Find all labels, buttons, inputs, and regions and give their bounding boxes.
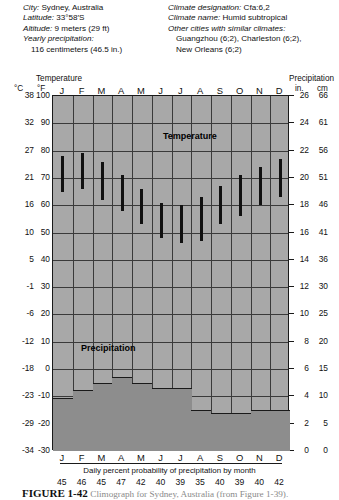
tick-mark bbox=[289, 150, 294, 151]
month-label-bottom: A bbox=[190, 452, 210, 463]
celsius-tick-label: -6 bbox=[8, 308, 34, 318]
month-label-bottom: D bbox=[269, 452, 289, 463]
temperature-range-bar bbox=[140, 189, 143, 225]
temperature-series-label: Temperature bbox=[163, 131, 217, 141]
precipitation-step bbox=[132, 383, 152, 451]
probability-caption: Daily percent probability of precipitati… bbox=[0, 466, 339, 475]
centimeters-tick-label: 46 bbox=[313, 199, 328, 209]
inches-tick-label: 10 bbox=[295, 308, 309, 318]
probability-value: 39 bbox=[169, 477, 191, 487]
centimeters-tick-label: 56 bbox=[313, 145, 328, 155]
precipitation-step bbox=[93, 383, 113, 451]
fahrenheit-tick-label: 80 bbox=[33, 145, 50, 155]
info-line: Climate name: Humid subtropical bbox=[168, 13, 339, 23]
inches-tick-label: 26 bbox=[295, 90, 309, 100]
centimeters-tick-label: 66 bbox=[313, 90, 328, 100]
precipitation-series-label: Precipitation bbox=[81, 343, 136, 353]
probability-value: 47 bbox=[110, 477, 132, 487]
info-line: Other cities with similar climates: bbox=[168, 24, 339, 34]
probability-value: 46 bbox=[71, 477, 93, 487]
info-line: New Orleans (6;2) bbox=[168, 45, 339, 55]
celsius-tick-label: -1 bbox=[8, 281, 34, 291]
temperature-range-bar bbox=[200, 197, 203, 241]
inches-tick-label: 0 bbox=[295, 445, 309, 455]
temperature-range-bar bbox=[239, 175, 242, 216]
info-line: 116 centimeters (46.5 in.) bbox=[23, 45, 173, 55]
probability-value: 45 bbox=[51, 477, 73, 487]
tick-mark bbox=[289, 177, 294, 178]
temperature-range-bar bbox=[121, 175, 124, 211]
info-line: Yearly precipitation: bbox=[23, 34, 173, 44]
centimeters-tick-label: 61 bbox=[313, 117, 328, 127]
temperature-range-bar bbox=[219, 186, 222, 224]
precipitation-step bbox=[112, 377, 132, 451]
celsius-tick-label: -29 bbox=[8, 418, 34, 428]
inches-tick-label: 8 bbox=[295, 336, 309, 346]
tick-mark bbox=[289, 286, 294, 287]
tick-mark bbox=[289, 204, 294, 205]
figure-caption-text: Climograph for Sydney, Australia (from F… bbox=[90, 489, 288, 499]
probability-value: 40 bbox=[248, 477, 270, 487]
temperature-range-bar bbox=[259, 167, 262, 205]
inches-tick-label: 2 bbox=[295, 418, 309, 428]
info-line: Guangzhou (6;2), Charleston (6;2), bbox=[168, 34, 339, 44]
month-label-bottom: S bbox=[210, 452, 230, 463]
celsius-tick-label: 10 bbox=[8, 227, 34, 237]
fahrenheit-tick-label: 30 bbox=[33, 281, 50, 291]
tick-mark bbox=[289, 368, 294, 369]
figure-number: FIGURE 1-42 bbox=[22, 487, 88, 499]
fahrenheit-tick-label: 20 bbox=[33, 308, 50, 318]
fahrenheit-tick-label: 60 bbox=[33, 199, 50, 209]
inches-tick-label: 16 bbox=[295, 227, 309, 237]
celsius-tick-label: 38 bbox=[8, 90, 34, 100]
month-label-bottom: A bbox=[111, 452, 131, 463]
tick-mark bbox=[289, 95, 294, 96]
month-label-bottom: M bbox=[131, 452, 151, 463]
climograph-plot-area: Temperature Precipitation bbox=[52, 95, 289, 450]
inches-tick-label: 4 bbox=[295, 390, 309, 400]
month-label-bottom: O bbox=[230, 452, 250, 463]
temperature-range-bar bbox=[180, 205, 183, 243]
tick-mark bbox=[289, 395, 294, 396]
precipitation-step bbox=[172, 388, 192, 451]
celsius-tick-label: -34 bbox=[8, 445, 34, 455]
centimeters-tick-label: 41 bbox=[313, 227, 328, 237]
centimeters-tick-label: 25 bbox=[313, 308, 328, 318]
celsius-tick-label: 16 bbox=[8, 199, 34, 209]
centimeters-tick-label: 51 bbox=[313, 172, 328, 182]
inches-tick-label: 6 bbox=[295, 363, 309, 373]
month-label-bottom: J bbox=[170, 452, 190, 463]
precipitation-scale: 2666246122562051184616411436123010258206… bbox=[289, 95, 339, 451]
temperature-range-bar bbox=[160, 203, 163, 239]
info-line: Latitude: 33°58′S bbox=[23, 13, 173, 23]
fahrenheit-tick-label: 40 bbox=[33, 254, 50, 264]
probability-value: 40 bbox=[209, 477, 231, 487]
centimeters-tick-label: 5 bbox=[313, 418, 328, 428]
info-line: Climate designation: Cfa:6,2 bbox=[168, 3, 339, 13]
centimeters-tick-label: 36 bbox=[313, 254, 328, 264]
precipitation-step-area bbox=[53, 96, 288, 449]
inches-tick-label: 12 bbox=[295, 281, 309, 291]
month-label-bottom: J bbox=[52, 452, 72, 463]
celsius-tick-label: 32 bbox=[8, 117, 34, 127]
tick-mark bbox=[289, 341, 294, 342]
probability-value: 40 bbox=[150, 477, 172, 487]
tick-mark bbox=[289, 313, 294, 314]
tick-mark bbox=[289, 122, 294, 123]
centimeters-tick-label: 10 bbox=[313, 390, 328, 400]
temperature-range-bar bbox=[279, 159, 282, 197]
precipitation-step bbox=[73, 390, 93, 451]
inches-tick-label: 14 bbox=[295, 254, 309, 264]
tick-mark bbox=[289, 232, 294, 233]
inches-tick-label: 22 bbox=[295, 145, 309, 155]
probability-value: 35 bbox=[189, 477, 211, 487]
fahrenheit-tick-label: 70 bbox=[33, 172, 50, 182]
probability-value: 42 bbox=[130, 477, 152, 487]
precipitation-step bbox=[211, 413, 231, 451]
fahrenheit-tick-label: -20 bbox=[33, 418, 50, 428]
precipitation-step bbox=[270, 410, 290, 451]
precipitation-step bbox=[231, 413, 251, 451]
celsius-tick-label: -23 bbox=[8, 390, 34, 400]
celsius-tick-label: 27 bbox=[8, 145, 34, 155]
centimeters-tick-label: 30 bbox=[313, 281, 328, 291]
